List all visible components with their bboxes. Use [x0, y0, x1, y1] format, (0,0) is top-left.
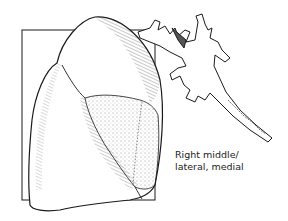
caption-line-1: Right middle/	[175, 149, 275, 161]
figure-caption: Right middle/ lateral, medial	[175, 149, 275, 173]
caption-line-2: lateral, medial	[175, 161, 275, 173]
lung-segment-illustration: Right middle/ lateral, medial	[0, 0, 288, 221]
lung-drawing	[0, 0, 288, 221]
